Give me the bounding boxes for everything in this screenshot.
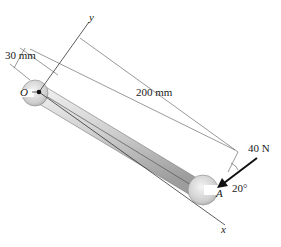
wrench-shaft — [36, 86, 200, 196]
diagram-graphics — [0, 0, 281, 247]
y-axis-label: y — [89, 12, 94, 23]
dim-length-label: 200 mm — [136, 87, 172, 98]
origin-label: O — [20, 87, 28, 98]
angle-label: 20° — [232, 183, 247, 194]
dim-offset-label: 30 mm — [5, 50, 36, 61]
x-axis-label: x — [221, 224, 226, 235]
wrench-shaft-edge — [46, 96, 196, 188]
point-a-label: A — [216, 188, 223, 199]
x-axis — [39, 92, 225, 225]
origin-point — [37, 90, 42, 95]
wrench-diagram: 30 mm 200 mm 40 N 20° O A x y — [0, 0, 281, 247]
force-label: 40 N — [248, 143, 270, 154]
